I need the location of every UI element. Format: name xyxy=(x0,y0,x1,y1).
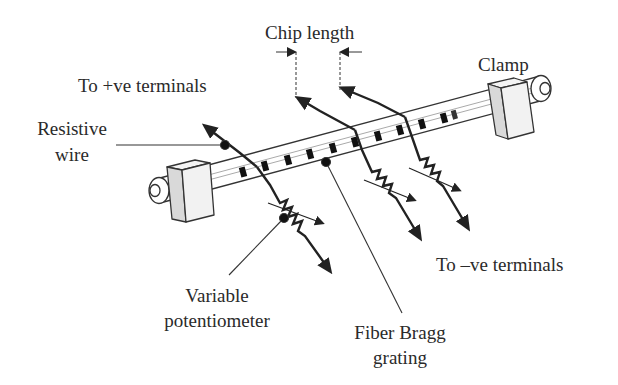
label-fiber-bragg-grating: Fiber Bragg grating xyxy=(344,322,456,369)
resistive-wire-dot xyxy=(221,141,230,150)
label-variable-potentiometer-line1: Variable xyxy=(152,285,282,307)
label-resistive-wire: Resistive wire xyxy=(30,118,114,166)
label-chip-length: Chip length xyxy=(265,22,354,44)
clamp-right xyxy=(488,78,534,139)
label-fbg-line2: grating xyxy=(344,347,456,369)
potentiometer-leader xyxy=(229,219,283,275)
label-resistive-wire-line1: Resistive xyxy=(30,118,114,140)
label-to-positive-terminals: To +ve terminals xyxy=(78,75,207,97)
potentiometer-wiper-2 xyxy=(364,180,414,200)
clamp-left xyxy=(167,160,214,222)
heater-wire-3 xyxy=(342,88,468,228)
label-variable-potentiometer: Variable potentiometer xyxy=(152,285,282,332)
fbg-dot xyxy=(322,158,331,167)
heater-wire-2 xyxy=(298,98,420,238)
label-fbg-line1: Fiber Bragg xyxy=(344,322,456,344)
potentiometer-wiper-3 xyxy=(409,168,459,190)
label-to-negative-terminals: To –ve terminals xyxy=(436,254,563,276)
label-clamp: Clamp xyxy=(478,54,529,76)
label-variable-potentiometer-line2: potentiometer xyxy=(152,310,282,332)
label-resistive-wire-line2: wire xyxy=(30,144,114,166)
potentiometer-dot xyxy=(280,214,289,223)
